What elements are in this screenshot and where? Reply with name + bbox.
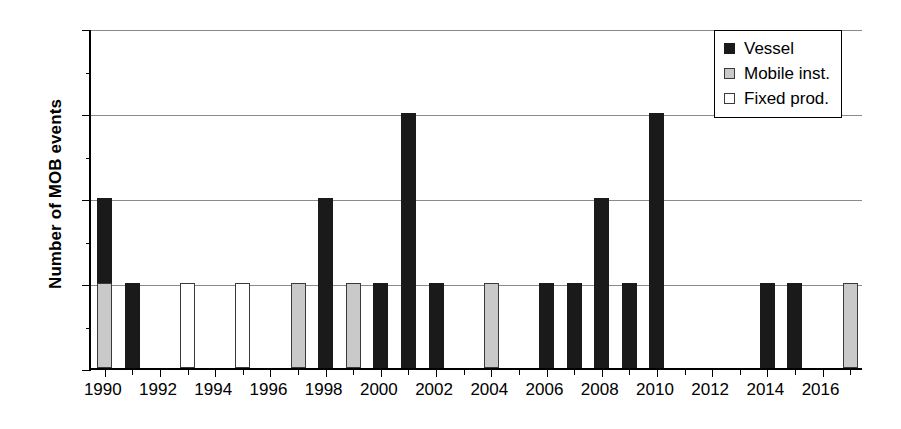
bar-segment-vessel-2009[interactable] bbox=[622, 283, 637, 368]
x-tick-1994 bbox=[215, 368, 216, 377]
bar-segment-fixed-1995[interactable] bbox=[235, 283, 250, 368]
x-tick-2008 bbox=[602, 368, 603, 377]
x-tick-2000 bbox=[381, 368, 382, 377]
legend-item-mobile[interactable]: Mobile inst. bbox=[724, 61, 830, 86]
x-tick-1990 bbox=[105, 368, 106, 377]
bar-2000[interactable] bbox=[373, 283, 388, 368]
bar-segment-mobile-1999[interactable] bbox=[346, 283, 361, 368]
x-tick-2013 bbox=[740, 368, 741, 375]
bar-2002[interactable] bbox=[429, 283, 444, 368]
y-tick-0 bbox=[82, 370, 91, 371]
y-tick-1 bbox=[82, 285, 91, 286]
legend-label-fixed: Fixed prod. bbox=[744, 90, 829, 107]
x-tick-label-2016: 2016 bbox=[786, 381, 856, 399]
bar-segment-mobile-1997[interactable] bbox=[291, 283, 306, 368]
y-tick-minor bbox=[86, 73, 91, 74]
x-tick-2005 bbox=[519, 368, 520, 375]
bar-2010[interactable] bbox=[649, 113, 664, 368]
y-tick-minor bbox=[86, 328, 91, 329]
bar-2004[interactable] bbox=[484, 283, 499, 368]
x-tick-1993 bbox=[188, 368, 189, 375]
mob-events-bar-chart: Number of MOB events 01234 1990199219941… bbox=[0, 0, 901, 429]
x-tick-2012 bbox=[712, 368, 713, 377]
chart-legend: VesselMobile inst.Fixed prod. bbox=[714, 30, 842, 118]
x-tick-2001 bbox=[408, 368, 409, 375]
x-tick-2010 bbox=[657, 368, 658, 377]
y-tick-minor bbox=[86, 158, 91, 159]
bar-segment-vessel-2007[interactable] bbox=[567, 283, 582, 368]
bar-segment-fixed-1993[interactable] bbox=[180, 283, 195, 368]
legend-swatch-fixed-icon bbox=[724, 93, 735, 104]
x-tick-2011 bbox=[685, 368, 686, 375]
bar-segment-mobile-2017[interactable] bbox=[843, 283, 858, 368]
x-tick-1997 bbox=[298, 368, 299, 375]
bar-segment-vessel-2002[interactable] bbox=[429, 283, 444, 368]
legend-label-mobile: Mobile inst. bbox=[744, 65, 830, 82]
bar-segment-vessel-2001[interactable] bbox=[401, 113, 416, 368]
x-tick-2016 bbox=[823, 368, 824, 377]
x-tick-1995 bbox=[243, 368, 244, 375]
y-tick-4 bbox=[82, 30, 91, 31]
bar-1990[interactable] bbox=[97, 198, 112, 368]
x-tick-2014 bbox=[767, 368, 768, 377]
x-tick-1999 bbox=[353, 368, 354, 375]
x-tick-1992 bbox=[160, 368, 161, 377]
x-tick-1991 bbox=[132, 368, 133, 375]
x-tick-2003 bbox=[464, 368, 465, 375]
bar-1999[interactable] bbox=[346, 283, 361, 368]
bar-2009[interactable] bbox=[622, 283, 637, 368]
x-tick-2007 bbox=[574, 368, 575, 375]
x-tick-2006 bbox=[547, 368, 548, 377]
bar-segment-vessel-1990[interactable] bbox=[97, 198, 112, 283]
y-tick-minor bbox=[86, 243, 91, 244]
bar-2015[interactable] bbox=[787, 283, 802, 368]
legend-swatch-mobile-icon bbox=[724, 68, 735, 79]
bar-1991[interactable] bbox=[125, 283, 140, 368]
x-tick-2009 bbox=[629, 368, 630, 375]
bar-2017[interactable] bbox=[843, 283, 858, 368]
bar-1995[interactable] bbox=[235, 283, 250, 368]
y-tick-3 bbox=[82, 115, 91, 116]
bar-segment-vessel-2010[interactable] bbox=[649, 113, 664, 368]
bar-2008[interactable] bbox=[594, 198, 609, 368]
bar-2014[interactable] bbox=[760, 283, 775, 368]
legend-label-vessel: Vessel bbox=[744, 40, 794, 57]
legend-item-fixed[interactable]: Fixed prod. bbox=[724, 86, 830, 111]
x-tick-1996 bbox=[270, 368, 271, 377]
x-tick-2004 bbox=[491, 368, 492, 377]
bar-1993[interactable] bbox=[180, 283, 195, 368]
gridline-2 bbox=[91, 200, 862, 201]
legend-swatch-vessel-icon bbox=[724, 43, 735, 54]
bar-2006[interactable] bbox=[539, 283, 554, 368]
x-tick-2017 bbox=[850, 368, 851, 375]
x-tick-1998 bbox=[326, 368, 327, 377]
bar-2007[interactable] bbox=[567, 283, 582, 368]
bar-segment-vessel-2008[interactable] bbox=[594, 198, 609, 368]
legend-item-vessel[interactable]: Vessel bbox=[724, 36, 830, 61]
y-axis-title: Number of MOB events bbox=[41, 44, 71, 344]
bar-segment-vessel-2014[interactable] bbox=[760, 283, 775, 368]
bar-1998[interactable] bbox=[318, 198, 333, 368]
bar-segment-vessel-2015[interactable] bbox=[787, 283, 802, 368]
bar-segment-vessel-1998[interactable] bbox=[318, 198, 333, 368]
x-tick-2002 bbox=[436, 368, 437, 377]
bar-segment-mobile-1990[interactable] bbox=[97, 283, 112, 368]
bar-segment-mobile-2004[interactable] bbox=[484, 283, 499, 368]
bar-segment-vessel-1991[interactable] bbox=[125, 283, 140, 368]
bar-segment-vessel-2006[interactable] bbox=[539, 283, 554, 368]
bar-segment-vessel-2000[interactable] bbox=[373, 283, 388, 368]
gridline-1 bbox=[91, 285, 862, 286]
x-tick-2015 bbox=[795, 368, 796, 375]
bar-1997[interactable] bbox=[291, 283, 306, 368]
y-tick-2 bbox=[82, 200, 91, 201]
bar-2001[interactable] bbox=[401, 113, 416, 368]
